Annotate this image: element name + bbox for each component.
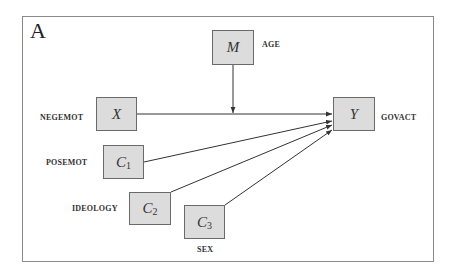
node-y: Y xyxy=(333,97,375,131)
node-c1: C1 xyxy=(103,145,144,179)
node-c3-symbol: C xyxy=(197,214,207,231)
node-c3-subscript: 3 xyxy=(207,220,212,231)
node-c2-symbol: C xyxy=(142,200,152,217)
edge-c1-to-y xyxy=(144,121,332,162)
node-c1-subscript: 1 xyxy=(126,160,131,171)
node-x: X xyxy=(96,97,137,131)
node-c1-symbol: C xyxy=(116,154,126,171)
node-x-symbol: X xyxy=(112,106,121,123)
label-posemot: POSEMOT xyxy=(46,158,87,167)
node-c2: C2 xyxy=(129,192,171,225)
label-negemot: NEGEMOT xyxy=(40,113,83,122)
edge-c2-to-y xyxy=(171,125,332,192)
label-govact: GOVACT xyxy=(381,113,416,122)
node-y-symbol: Y xyxy=(350,106,358,123)
label-sex: SEX xyxy=(197,245,213,254)
node-m: M xyxy=(212,30,254,65)
panel-letter: A xyxy=(30,20,46,42)
label-ideology: IDEOLOGY xyxy=(72,204,118,213)
node-c3: C3 xyxy=(184,205,225,239)
label-age: AGE xyxy=(262,40,280,49)
node-m-symbol: M xyxy=(227,39,240,56)
node-c2-subscript: 2 xyxy=(153,206,158,217)
